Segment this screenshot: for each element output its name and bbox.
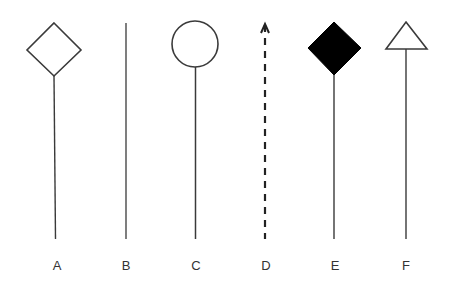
label-d: D <box>251 258 281 273</box>
label-c: C <box>181 258 211 273</box>
label-b: B <box>111 258 141 273</box>
symbol-a <box>27 23 81 239</box>
symbol-diagram <box>0 0 449 289</box>
filled-diamond-icon <box>308 22 361 75</box>
label-f: F <box>391 258 421 273</box>
hollow-diamond-icon <box>27 23 81 76</box>
symbol-e <box>308 22 361 239</box>
symbol-c <box>172 21 218 239</box>
symbol-f <box>386 22 427 239</box>
label-e: E <box>320 258 350 273</box>
label-a: A <box>42 258 72 273</box>
solid-line <box>54 76 56 239</box>
hollow-triangle-icon <box>386 22 427 49</box>
symbol-d <box>261 24 269 239</box>
hollow-circle-icon <box>172 21 218 67</box>
